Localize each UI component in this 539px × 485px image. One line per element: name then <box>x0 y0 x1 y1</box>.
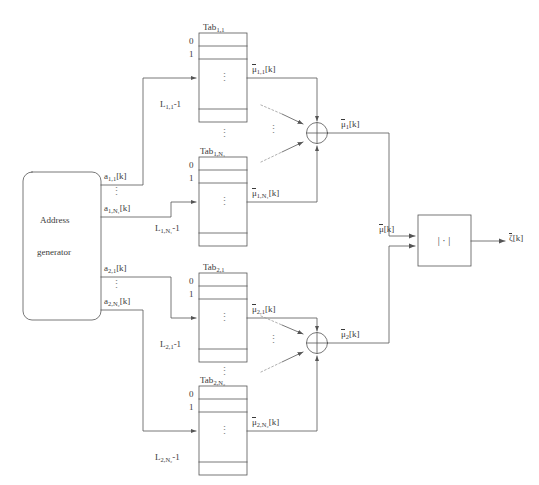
signal-mu-2-sum-label: μ2[k] <box>341 330 360 339</box>
table-1-N1-row-1: 1 <box>189 174 194 183</box>
table-1-1-row-0: 0 <box>189 37 194 46</box>
magnitude-block-symbol: | · | <box>438 236 450 246</box>
table-1-N1-rows-ellipsis: ⋮ <box>219 196 230 207</box>
table-2-1-row-last: L2,1-1 <box>160 340 181 349</box>
table-group-1-ellipsis: ⋮ <box>219 128 230 139</box>
address-generator-label-line1: Address <box>40 216 70 225</box>
signal-a-2-N2-label: a2,N₂[k] <box>104 297 130 306</box>
signal-a-1-N1-label: a1,N₁[k] <box>104 204 130 213</box>
signal-zeta-output-label: ζ[k] <box>509 234 523 243</box>
signal-mu-1-N1-label: μ1,N₁[k] <box>252 189 279 198</box>
table-1-1-caption: Tab1,1 <box>203 23 225 32</box>
adder-2-fanin-ellipsis: ⋮ <box>268 334 279 345</box>
table-2-N2-rows-ellipsis: ⋮ <box>219 425 230 436</box>
signal-mu-2-1-label: μ2,1[k] <box>252 305 275 314</box>
adder-1-extra-in-bot-dash <box>261 152 282 162</box>
table-1-1-row-last: L1,1-1 <box>160 100 181 109</box>
address-generator-box <box>23 172 101 320</box>
signal-mu-2-N2-label: μ2,N₂[k] <box>252 418 279 427</box>
table-2-N2-row-0: 0 <box>189 390 194 399</box>
wire-a-2-N2 <box>101 310 196 431</box>
address-generator-label-line2: generator <box>37 248 71 257</box>
address-outputs-group1-ellipsis: ⋮ <box>111 186 122 197</box>
table-1-1-row-1: 1 <box>189 50 194 59</box>
table-2-N2-row-1: 1 <box>189 403 194 412</box>
adder-1-extra-in-top-dash <box>261 105 282 114</box>
adder-1-extra-in-top <box>282 114 303 124</box>
signal-mu-combined-label: μ[k] <box>379 225 394 234</box>
table-1-1-rows-ellipsis: ⋮ <box>219 72 230 83</box>
signal-a-2-1-label: a2,1[k] <box>104 264 127 273</box>
wire-a-1-1 <box>101 78 196 185</box>
table-2-N2-caption: Tab2,N₂ <box>200 376 225 385</box>
table-2-1-row-0: 0 <box>189 277 194 286</box>
address-outputs-group2-ellipsis: ⋮ <box>111 279 122 290</box>
table-2-N2-row-last: L2,N₂-1 <box>155 453 180 462</box>
signal-mu-1-sum-label: μ1[k] <box>341 120 360 129</box>
diagram-canvas: Address generator Tab1,1 0 1 L1,1-1 ⋮ Ta… <box>0 0 539 485</box>
table-1-N1-row-last: L1,N₁-1 <box>155 224 180 233</box>
signal-a-1-1-label: a1,1[k] <box>104 172 127 181</box>
wire-mu-1 <box>328 133 415 236</box>
wire-mu-2-1 <box>247 318 317 331</box>
adder-2-extra-in-top <box>282 325 303 334</box>
adder-1-fanin-ellipsis: ⋮ <box>268 124 279 135</box>
table-2-1-rows-ellipsis: ⋮ <box>219 312 230 323</box>
wire-mu-1-1 <box>247 78 317 121</box>
table-1-N1-row-0: 0 <box>189 161 194 170</box>
adder-2-extra-in-top-dash <box>261 316 282 325</box>
table-2-1-caption: Tab2,1 <box>203 263 225 272</box>
signal-mu-1-1-label: μ1,1[k] <box>252 65 275 74</box>
table-group-2-ellipsis: ⋮ <box>219 366 230 377</box>
table-1-N1-caption: Tab1,N₁ <box>200 147 225 156</box>
adder-2-extra-in-bot <box>282 352 303 362</box>
table-2-1-row-1: 1 <box>189 290 194 299</box>
adder-2-extra-in-bot-dash <box>261 362 282 372</box>
adder-1-extra-in-bot <box>282 142 303 152</box>
